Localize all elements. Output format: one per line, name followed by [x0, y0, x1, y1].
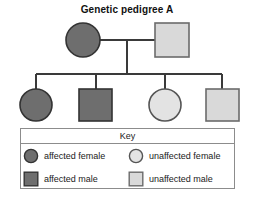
key-label-affected-male: affected male	[44, 174, 98, 184]
key-entry-affected-male: affected male	[23, 167, 128, 190]
key-label-affected-female: affected female	[44, 151, 105, 161]
key-label-unaffected-male: unaffected male	[149, 174, 213, 184]
pedigree-symbol-mother-affected-female	[66, 23, 100, 57]
key-legend: Key affected female unaffected female af…	[20, 128, 235, 189]
unaffected-female-circle-icon	[128, 148, 144, 164]
pedigree-symbol-child-4-unaffected-male	[206, 89, 239, 121]
pedigree-symbol-child-3-unaffected-female	[149, 89, 181, 121]
key-title: Key	[21, 129, 234, 144]
affected-male-square-icon	[23, 171, 39, 187]
key-label-unaffected-female: unaffected female	[149, 151, 220, 161]
unaffected-male-square-icon	[128, 171, 144, 187]
key-entry-affected-female: affected female	[23, 144, 128, 167]
key-entry-unaffected-female: unaffected female	[128, 144, 236, 167]
pedigree-symbol-father-unaffected-male	[155, 23, 189, 57]
pedigree-symbol-child-1-affected-female	[20, 89, 52, 121]
pedigree-symbol-child-2-affected-male	[79, 89, 112, 121]
pedigree-connector-lines	[36, 40, 222, 89]
pedigree-diagram	[0, 0, 254, 126]
affected-female-circle-icon	[23, 148, 39, 164]
key-entries: affected female unaffected female affect…	[21, 144, 234, 190]
key-entry-unaffected-male: unaffected male	[128, 167, 236, 190]
